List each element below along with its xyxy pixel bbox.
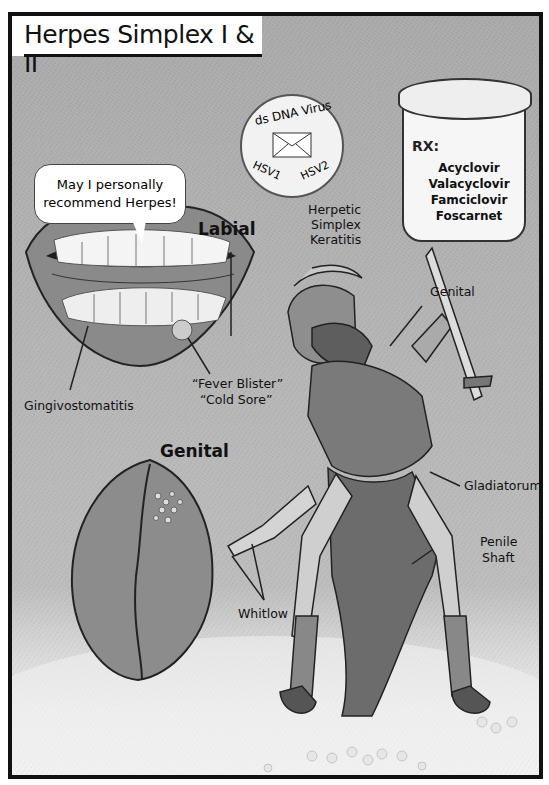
rx-bottle-lid: [398, 78, 532, 120]
label-penile-line2: Shaft: [482, 550, 515, 565]
speech-bubble-tail: [132, 220, 146, 244]
label-gingivostomatitis: Gingivostomatitis: [24, 398, 134, 413]
page-title: Herpes Simplex I & II: [24, 20, 262, 78]
label-cold-sore: “Cold Sore”: [200, 392, 272, 407]
label-genital-gladiator: Genital: [430, 284, 475, 299]
rx-drug: Valacyclovir: [424, 176, 514, 192]
title-underline: [24, 54, 262, 57]
label-keratitis-line3: Keratitis: [310, 232, 361, 247]
envelope-icon: [272, 132, 312, 158]
label-gladiatorum: Gladiatorum: [464, 478, 542, 493]
section-labial: Labial: [198, 222, 256, 237]
label-penile-line1: Penile: [480, 534, 517, 549]
rx-drug: Foscarnet: [424, 208, 514, 224]
label-fever-blister: “Fever Blister”: [192, 376, 283, 391]
label-keratitis-line2: Simplex: [311, 217, 361, 232]
rx-header: RX:: [412, 138, 439, 154]
speech-line-1: May I personally: [43, 176, 176, 194]
speech-bubble: May I personally recommend Herpes!: [34, 164, 186, 224]
badge-hsv2: HSV2: [299, 158, 331, 182]
rx-drug-list: Acyclovir Valacyclovir Famciclovir Fosca…: [424, 160, 514, 224]
label-whitlow: Whitlow: [238, 606, 288, 621]
rx-drug: Acyclovir: [424, 160, 514, 176]
rx-drug: Famciclovir: [424, 192, 514, 208]
speech-line-2: recommend Herpes!: [43, 194, 176, 212]
badge-hsv1: HSV1: [251, 158, 283, 182]
rx-bottle: RX: Acyclovir Valacyclovir Famciclovir F…: [398, 78, 528, 246]
virus-badge: ds DNA Virus HSV1 HSV2: [240, 94, 344, 198]
badge-top-text: ds DNA Virus: [253, 98, 332, 128]
title-box: Herpes Simplex I & II: [12, 16, 262, 56]
section-genital: Genital: [160, 444, 229, 459]
illustration-frame: Herpes Simplex I & II May I personally r…: [8, 12, 543, 779]
label-keratitis-line1: Herpetic: [308, 202, 361, 217]
